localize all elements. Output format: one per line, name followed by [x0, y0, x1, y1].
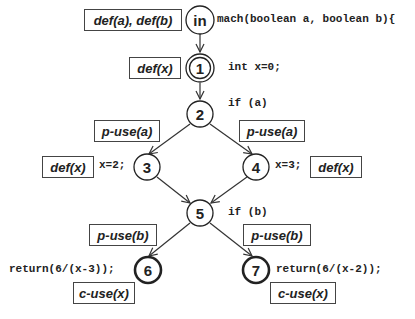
annotation-def-a-b: def(a), def(b) [84, 9, 182, 31]
svg-text:6: 6 [144, 262, 152, 279]
annotation-p-use-b-right: p-use(b) [243, 224, 311, 246]
annotation-def-x-node1: def(x) [129, 57, 181, 79]
annotation-c-use-x-node7: c-use(x) [270, 282, 336, 304]
code-node-3: x=2; [99, 158, 125, 172]
svg-text:4: 4 [252, 159, 261, 176]
code-node-4: x=3; [275, 158, 301, 172]
node-4: 4 [243, 154, 269, 180]
code-node-2: if (a) [228, 96, 268, 110]
code-node-in: mach(boolean a, boolean b){ [217, 12, 395, 26]
node-7: 7 [243, 257, 269, 283]
edge-3-5 [157, 177, 190, 203]
code-node-1: int x=0; [228, 60, 281, 74]
node-6: 6 [135, 257, 161, 283]
node-3: 3 [134, 154, 160, 180]
annotation-p-use-a-left: p-use(a) [94, 120, 160, 142]
code-node-6: return(6/(x-3)); [9, 262, 115, 276]
svg-text:2: 2 [196, 106, 204, 123]
node-in: in [186, 6, 214, 34]
annotation-def-x-node3: def(x) [42, 156, 94, 178]
annotation-def-x-node4: def(x) [310, 156, 362, 178]
node-5: 5 [187, 200, 213, 226]
svg-text:5: 5 [196, 205, 204, 222]
code-node-5: if (b) [228, 205, 268, 219]
annotation-p-use-a-right: p-use(a) [239, 120, 305, 142]
svg-text:1: 1 [196, 60, 204, 77]
edge-4-5 [211, 177, 247, 203]
annotation-c-use-x-node6: c-use(x) [73, 282, 135, 304]
svg-text:7: 7 [252, 262, 260, 279]
svg-text:in: in [193, 12, 206, 29]
node-1: 1 [186, 54, 214, 82]
control-flow-graph: in 1 2 3 4 5 [0, 0, 415, 319]
code-node-7: return(6/(x-2)); [276, 262, 382, 276]
svg-text:3: 3 [143, 159, 151, 176]
annotation-p-use-b-left: p-use(b) [89, 224, 157, 246]
node-2: 2 [187, 101, 213, 127]
